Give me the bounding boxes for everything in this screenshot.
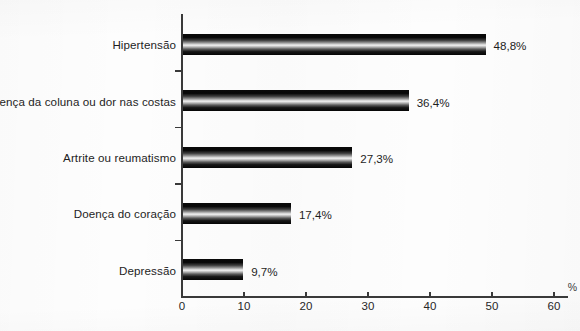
category-label: Artrite ou reumatismo (63, 151, 176, 164)
x-axis-line (181, 296, 568, 298)
bar (183, 147, 352, 168)
bar (183, 34, 486, 55)
x-axis-tick (429, 292, 431, 297)
x-axis-tick (367, 292, 369, 297)
y-axis-tick (175, 240, 182, 242)
y-axis-tick (175, 70, 182, 72)
x-axis-tick-label: 30 (362, 300, 375, 312)
x-axis-tick-label: 20 (300, 300, 313, 312)
category-label: Doença da coluna ou dor nas costas (0, 94, 176, 107)
bar (183, 203, 291, 224)
bar-value-label: 9,7% (251, 264, 277, 277)
category-label: Doença do coração (74, 207, 176, 220)
x-axis-tick-label: 40 (424, 300, 437, 312)
x-axis-tick (243, 292, 245, 297)
x-axis-tick (305, 292, 307, 297)
x-axis-tick-label: 60 (548, 300, 561, 312)
bar (183, 90, 409, 111)
bar (183, 259, 243, 280)
y-axis-tick (175, 127, 182, 129)
bar-value-label: 17,4% (299, 208, 332, 221)
x-axis-unit-label: % (568, 281, 577, 293)
category-label: Depressão (119, 263, 176, 276)
category-label: Hipertensão (112, 38, 176, 51)
x-axis-tick (553, 292, 555, 297)
x-axis-tick-label: 0 (179, 300, 185, 312)
y-axis-tick (175, 183, 182, 185)
bar-value-label: 48,8% (494, 39, 527, 52)
bar-value-label: 36,4% (417, 95, 450, 108)
x-axis-tick-label: 10 (238, 300, 251, 312)
bar-value-label: 27,3% (360, 152, 393, 165)
x-axis-tick (491, 292, 493, 297)
x-axis-tick-label: 50 (486, 300, 499, 312)
horizontal-bar-chart: 0102030405060 HipertensãoDoença da colun… (0, 0, 580, 331)
x-axis-tick (181, 292, 183, 297)
